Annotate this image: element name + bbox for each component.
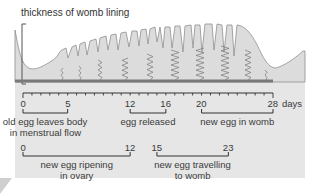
egg-phase-caption: new egg travelling [154, 160, 231, 171]
phase-caption: in menstrual flow [10, 128, 81, 139]
egg-phase-caption: in ovary [60, 171, 93, 182]
diagram-title: thickness of womb lining [21, 7, 129, 18]
egg-phase-caption: new egg ripening [41, 160, 113, 171]
phase-end-label: 16 [160, 99, 171, 109]
egg-phase-start-label: 15 [151, 143, 162, 153]
phase-start-label: 20 [196, 99, 207, 109]
egg-phase-start-label: 0 [21, 143, 26, 153]
phase-start-label: 12 [125, 99, 136, 109]
phase-caption: old egg leaves body [3, 117, 88, 128]
phase-end-label: 28 [268, 99, 279, 109]
phase-caption: new egg in womb [200, 117, 274, 128]
womb-base-line [15, 80, 273, 83]
egg-phase-end-label: 23 [223, 143, 234, 153]
egg-phase-end-label: 12 [125, 143, 136, 153]
phase-caption: egg released [121, 117, 176, 128]
phase-start-label: 0 [21, 99, 26, 109]
menstrual-cycle-diagram: thickness of womb lining 05old egg leave… [0, 0, 323, 194]
womb-lining-shape [15, 24, 305, 82]
page-curl-shadow [0, 178, 12, 194]
days-unit-label: days [282, 99, 302, 109]
egg-phase-caption: to womb [175, 171, 211, 182]
phase-end-label: 5 [65, 99, 70, 109]
